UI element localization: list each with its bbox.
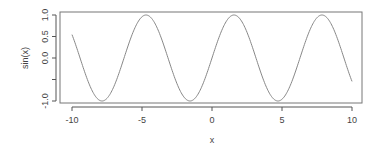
x-tick-label: -5 xyxy=(138,115,146,125)
x-tick-label: 0 xyxy=(209,115,214,125)
x-tick-label: -10 xyxy=(65,115,78,125)
y-axis-label: sin(x) xyxy=(20,47,30,69)
y-axis: -1.00.00.51.0 xyxy=(40,9,56,109)
y-tick-label: 1.0 xyxy=(40,9,50,22)
x-tick-label: 5 xyxy=(279,115,284,125)
y-tick-label: 0.5 xyxy=(40,30,50,43)
y-tick-label: 0.0 xyxy=(40,52,50,65)
sine-curve xyxy=(72,15,352,101)
y-tick-label: -1.0 xyxy=(40,93,50,109)
x-axis-label: x xyxy=(210,135,215,145)
sine-chart: -10-50510 -1.00.00.51.0 x sin(x) xyxy=(0,0,384,155)
plot-box xyxy=(60,12,362,103)
x-axis: -10-50510 xyxy=(65,107,357,125)
x-tick-label: 10 xyxy=(347,115,357,125)
